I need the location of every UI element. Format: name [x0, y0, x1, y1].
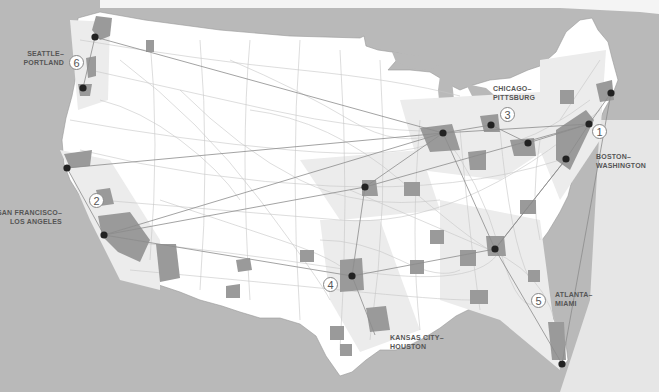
corridor-name-line1: ATLANTA– — [555, 290, 593, 299]
city-dot-miami — [558, 360, 565, 367]
corridor-label-chicago-pittsburg: CHICAGO– PITTSBURG — [493, 84, 535, 102]
city-dot-los-angeles — [100, 231, 107, 238]
corridor-badge-2: 2 — [89, 193, 104, 208]
corridor-badge-3: 3 — [500, 107, 515, 122]
city-dot-dallas — [348, 272, 355, 279]
corridor-name-line2: MIAMI — [555, 299, 593, 308]
corridor-label-seattle-portland: SEATTLE– PORTLAND — [16, 49, 64, 67]
city-dot-atlanta — [491, 245, 498, 252]
corridor-name-line2: HOUSTON — [390, 342, 444, 351]
corridor-name-line1: SAN FRANCISCO– — [0, 208, 62, 217]
corridor-name-line2: PORTLAND — [16, 58, 64, 67]
corridor-label-sf-la: SAN FRANCISCO– LOS ANGELES — [0, 208, 62, 226]
city-dot-pittsburgh — [524, 139, 531, 146]
corridor-badge-4: 4 — [323, 277, 338, 292]
city-dot-washington — [562, 155, 569, 162]
corridor-badge-5: 5 — [531, 293, 546, 308]
corridor-name-line1: CHICAGO– — [493, 84, 535, 93]
corridor-label-kansas-city-houston: KANSAS CITY– HOUSTON — [390, 333, 444, 351]
corridor-name-line2: LOS ANGELES — [0, 217, 62, 226]
corridor-badge-1: 1 — [592, 124, 607, 139]
city-dot-portland — [79, 84, 86, 91]
corridor-badge-6: 6 — [69, 55, 84, 70]
city-dot-boston — [607, 89, 614, 96]
corridor-name-line1: BOSTON– — [596, 152, 646, 161]
corridor-name-line2: WASHINGTON — [596, 161, 646, 170]
city-dot-kansas-city — [361, 183, 368, 190]
corridor-name-line1: SEATTLE– — [16, 49, 64, 58]
corridor-name-line2: PITTSBURG — [493, 93, 535, 102]
city-dot-new-york — [585, 120, 592, 127]
city-dot-seattle — [91, 33, 98, 40]
corridor-label-atlanta-miami: ATLANTA– MIAMI — [555, 290, 593, 308]
corridor-label-boston-washington: BOSTON– WASHINGTON — [596, 152, 646, 170]
corridor-name-line1: KANSAS CITY– — [390, 333, 444, 342]
city-dot-detroit — [487, 121, 494, 128]
city-dot-chicago — [439, 129, 446, 136]
city-dot-san-francisco — [63, 164, 70, 171]
